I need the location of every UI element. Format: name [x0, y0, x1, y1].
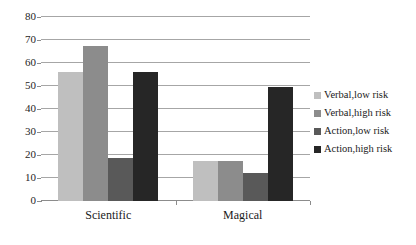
y-tick-label-80: 80: [6, 11, 36, 22]
bar-scientific-series-1: [83, 46, 108, 201]
bar-magical-series-1: [218, 161, 243, 201]
legend-label-3: Action,high risk: [324, 143, 392, 155]
y-tick-label-0: 0: [6, 195, 36, 206]
x-axis-label-magical: Magical: [176, 208, 311, 222]
legend-item-0[interactable]: Verbal,low risk: [314, 86, 416, 104]
y-tick-label-70: 70: [6, 34, 36, 45]
x-tick-mark-0: [176, 201, 177, 205]
legend-label-0: Verbal,low risk: [324, 89, 388, 101]
bar-magical-series-0: [193, 161, 218, 201]
y-tick-label-20: 20: [6, 149, 36, 160]
y-tick-mark-10: [37, 178, 41, 179]
legend-swatch-action-low-risk: [314, 128, 321, 135]
y-tick-mark-60: [37, 63, 41, 64]
legend-swatch-verbal-high-risk: [314, 110, 321, 117]
y-tick-mark-80: [37, 17, 41, 18]
legend-swatch-verbal-low-risk: [314, 92, 321, 99]
y-tick-mark-40: [37, 109, 41, 110]
legend-label-1: Verbal,high risk: [324, 107, 391, 119]
bar-scientific-series-3: [133, 72, 158, 201]
y-tick-label-10: 10: [6, 172, 36, 183]
y-tick-mark-70: [37, 40, 41, 41]
gridline-60: [41, 62, 310, 63]
legend-item-3[interactable]: Action,high risk: [314, 140, 416, 158]
y-tick-label-30: 30: [6, 126, 36, 137]
y-tick-label-50: 50: [6, 80, 36, 91]
chart-legend: Verbal,low riskVerbal,high riskAction,lo…: [314, 86, 416, 158]
y-tick-label-60: 60: [6, 57, 36, 68]
x-axis-label-scientific: Scientific: [41, 208, 176, 222]
legend-swatch-action-high-risk: [314, 146, 321, 153]
y-tick-mark-30: [37, 132, 41, 133]
y-tick-mark-50: [37, 86, 41, 87]
legend-item-2[interactable]: Action,low risk: [314, 122, 416, 140]
bar-magical-series-2: [243, 173, 268, 201]
gridline-80: [41, 16, 310, 17]
y-tick-label-40: 40: [6, 103, 36, 114]
y-axis-tick-labels: 01020304050607080: [0, 17, 36, 201]
bar-chart: 01020304050607080 ScientificMagical Verb…: [0, 0, 416, 245]
y-tick-mark-0: [37, 201, 41, 202]
y-tick-mark-20: [37, 155, 41, 156]
legend-label-2: Action,low risk: [324, 125, 389, 137]
x-tick-mark-1: [310, 201, 311, 205]
gridline-70: [41, 39, 310, 40]
bar-scientific-series-2: [108, 158, 133, 201]
legend-item-1[interactable]: Verbal,high risk: [314, 104, 416, 122]
bar-magical-series-3: [268, 87, 293, 201]
bar-scientific-series-0: [58, 72, 83, 201]
plot-area: [41, 17, 310, 201]
